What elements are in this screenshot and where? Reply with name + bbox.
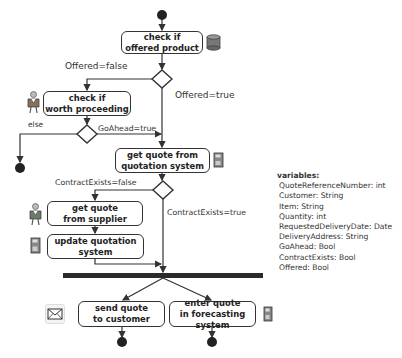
- variables-panel: variables: QuoteReferenceNumber: int Cus…: [279, 171, 392, 273]
- person-icon: [28, 203, 43, 227]
- guard-goahead-true: GoAhead=true: [98, 124, 156, 133]
- activity-get-quote-system: get quote from quotation system: [115, 148, 210, 173]
- guard-contract-true: ContractExists=true: [167, 208, 246, 217]
- decision-contract: [153, 181, 173, 199]
- activity-check-worth-proceeding: check if worth proceeding: [43, 91, 131, 116]
- activity-enter-forecast: enter quote in forecasting system: [169, 301, 256, 327]
- end-node-else: [15, 163, 25, 173]
- guard-else: else: [28, 120, 43, 129]
- variable-item: QuoteReferenceNumber: int: [279, 181, 392, 191]
- computer-icon: [213, 152, 224, 168]
- end-node-forecast: [207, 337, 217, 347]
- activity-send-quote: send quote to customer: [78, 301, 165, 327]
- activity-update-quotation-system: update quotation system: [47, 234, 144, 259]
- variable-item: Offered: Bool: [279, 263, 392, 273]
- start-node: [157, 10, 167, 20]
- computer-icon: [30, 237, 41, 254]
- envelope-icon: [45, 304, 65, 324]
- variable-item: Customer: String: [279, 191, 392, 201]
- database-icon: [206, 34, 221, 51]
- variable-item: DeliveryAddress: String: [279, 232, 392, 242]
- guard-offered-true: Offered=true: [175, 90, 235, 100]
- computer-icon: [263, 306, 273, 322]
- variables-title: variables:: [277, 171, 392, 181]
- decision-offered: [152, 70, 172, 88]
- person-icon: [26, 91, 41, 115]
- guard-offered-false: Offered=false: [65, 61, 128, 71]
- activity-check-offered-product: check if offered product: [121, 31, 203, 54]
- variable-item: Quantity: int: [279, 212, 392, 222]
- variable-item: GoAhead: Bool: [279, 242, 392, 252]
- variable-item: ContractExists: Bool: [279, 253, 392, 263]
- guard-contract-false: ContractExists=false: [55, 178, 137, 187]
- end-node-send: [117, 337, 127, 347]
- variable-item: RequestedDeliveryDate: Date: [279, 222, 392, 232]
- fork-bar: [63, 273, 263, 278]
- decision-goahead: [77, 125, 97, 143]
- activity-get-quote-supplier: get quote from supplier: [47, 201, 143, 226]
- variable-item: Item: String: [279, 202, 392, 212]
